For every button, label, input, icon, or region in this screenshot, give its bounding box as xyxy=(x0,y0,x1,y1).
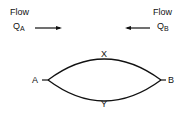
path-y-label: Y xyxy=(101,100,107,109)
flow-a-subscript: A xyxy=(20,25,25,32)
arrow-left-icon xyxy=(125,26,150,30)
node-b-label: B xyxy=(168,76,174,85)
flow-b-subscript: B xyxy=(164,25,169,32)
flow-a-q: Q xyxy=(13,21,20,31)
path-x-label: X xyxy=(101,50,107,59)
flow-b-q: Q xyxy=(157,21,164,31)
node-a-label: A xyxy=(32,76,38,85)
flow-b-symbol: QB xyxy=(157,22,169,33)
arrow-right-icon xyxy=(35,26,62,30)
diagram-canvas xyxy=(0,0,190,117)
flow-b-label: Flow xyxy=(153,8,172,17)
path-x-arc xyxy=(48,59,161,80)
flow-a-symbol: QA xyxy=(13,22,25,33)
path-y-arc xyxy=(48,80,161,101)
flow-a-label: Flow xyxy=(10,8,29,17)
